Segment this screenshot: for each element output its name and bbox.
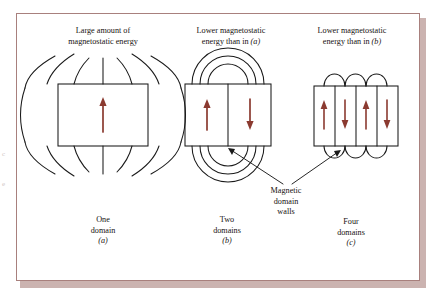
panel-b-top-caption-line1: Lower magnetostatic: [197, 26, 266, 35]
panel-a-bottom-label: One domain (a): [51, 215, 155, 247]
domain-walls-annotation-line3: walls: [277, 207, 294, 216]
panel-a-field-top-inner-left: [74, 58, 89, 84]
page-canvas: c e: [0, 0, 435, 306]
figure-canvas: Large amount of magnetostatic energy Low…: [17, 14, 419, 280]
panel-a-bottom-label-line1: One: [96, 215, 110, 224]
panel-b-top-caption-ref: (a): [251, 37, 261, 46]
leader-line-to-panel-b: [231, 150, 283, 184]
panel-c-bottom-label-line2: domains: [337, 228, 365, 237]
panel-a-field-left-return: [21, 88, 26, 142]
panel-c-arrow-up-2: [363, 100, 370, 129]
panel-c-top-caption-line1: Lower magnetostatic: [318, 26, 387, 35]
panel-c-loop-bot-2: [345, 146, 366, 158]
panel-c-top-caption-ref: (b): [372, 37, 382, 46]
panel-b-letter: (b): [222, 236, 232, 245]
panel-b-graphic: [185, 48, 271, 182]
figure-frame: Large amount of magnetostatic energy Low…: [16, 13, 420, 281]
panel-c-arrow-up-1: [321, 100, 328, 129]
leader-line-to-panel-c: [292, 152, 338, 184]
panel-a-field-top-outer-right: [151, 56, 181, 88]
panel-c-loop-top-3: [366, 74, 387, 86]
panel-a-field-top-inner-right: [117, 58, 132, 84]
margin-fragment-2: e: [2, 180, 5, 188]
panel-a-top-caption-line1: Large amount of: [76, 26, 130, 35]
panel-a-field-top-outer-left: [25, 56, 55, 88]
panel-c-letter: (c): [346, 238, 355, 247]
panel-b-top-caption: Lower magnetostatic energy than in (a): [169, 26, 293, 47]
panel-b-arc-bot-1: [208, 146, 248, 166]
panel-c-top-caption-line2: energy than in: [323, 37, 370, 46]
panel-b-arrow-up: [203, 99, 210, 130]
panel-b-arc-top-1: [208, 64, 248, 84]
panel-c-bottom-label-line1: Four: [343, 217, 358, 226]
panel-c-arrow-down-1: [342, 100, 349, 129]
panel-b-bottom-label: Two domains (b): [175, 215, 279, 247]
panel-c-bottom-label: Four domains (c): [299, 217, 403, 249]
domain-walls-annotation: Magnetic domain walls: [247, 186, 325, 218]
panel-c-loop-top-1: [324, 74, 345, 86]
panel-c-loop-bot-3: [366, 146, 387, 158]
panel-a-field-bot-inner-left: [74, 146, 89, 172]
panel-a-top-caption: Large amount of magnetostatic energy: [41, 26, 165, 47]
annotation-leader-lines: [228, 148, 341, 184]
panel-c-top-caption: Lower magnetostatic energy than in (b): [289, 26, 415, 47]
panel-a-letter: (a): [98, 236, 108, 245]
panel-c-loop-top-2: [345, 74, 366, 86]
panel-c-graphic: [314, 74, 398, 158]
panel-a-bottom-label-line2: domain: [91, 226, 116, 235]
panel-b-bottom-label-line1: Two: [220, 215, 234, 224]
domain-walls-annotation-line1: Magnetic: [271, 186, 302, 195]
panel-b-arc-top-3: [192, 48, 264, 84]
panel-c-arrow-down-2: [384, 100, 391, 129]
panel-a-top-caption-line2: magnetostatic energy: [68, 37, 138, 46]
panel-b-arrow-down: [246, 99, 253, 130]
margin-fragment-1: c: [2, 150, 5, 158]
panel-a-arrow-up: [99, 97, 106, 132]
panel-b-bottom-label-line2: domains: [213, 226, 241, 235]
panel-a-field-bot-outer-right: [151, 142, 181, 174]
panel-a-field-bot-outer-left: [25, 142, 55, 174]
panel-a-field-bot-inner-right: [117, 146, 132, 172]
panel-b-top-caption-line2: energy than in: [202, 37, 249, 46]
domain-walls-annotation-line2: domain: [274, 197, 299, 206]
